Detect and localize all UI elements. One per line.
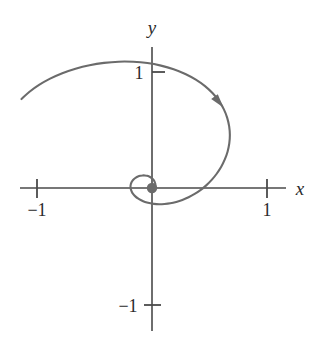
- x-axis-label: x: [295, 178, 305, 199]
- figure-background: [0, 0, 323, 341]
- y-axis-label: y: [146, 17, 157, 38]
- spiral-plot-figure: −1 1 1 −1 x y: [0, 0, 323, 341]
- x-tick-label-pos1: 1: [263, 200, 272, 220]
- y-tick-label-pos1: 1: [135, 63, 144, 83]
- y-tick-label-neg1: −1: [118, 296, 137, 316]
- x-tick-label-neg1: −1: [27, 200, 46, 220]
- origin-point-marker: [147, 183, 157, 193]
